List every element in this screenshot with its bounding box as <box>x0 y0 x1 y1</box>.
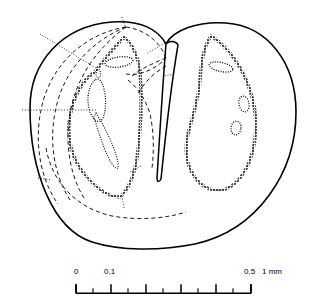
cross-section-drawing <box>0 0 311 304</box>
scale-tick-label: 0,1 <box>104 268 115 276</box>
figure-root: 00,10,51 mm <box>0 0 311 304</box>
scale-ticks <box>76 284 251 293</box>
scale-tick-label: 0,5 <box>244 268 255 276</box>
scale-bar <box>76 284 251 293</box>
scale-tick-label: 0 <box>74 268 78 276</box>
scale-end-label: 1 mm <box>262 268 282 276</box>
